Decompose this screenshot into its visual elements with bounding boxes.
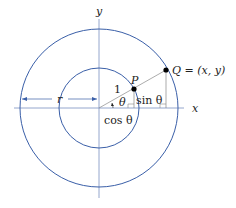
point-p-label: P bbox=[130, 74, 139, 87]
point-q-label: Q = (x, y) bbox=[172, 64, 225, 77]
polar-diagram: y x r 1 θ P Q = (x, y) sin θ cos θ bbox=[0, 0, 236, 208]
point-p bbox=[131, 86, 136, 91]
angle-arrowhead bbox=[111, 103, 114, 106]
unit-radius-label: 1 bbox=[114, 83, 121, 96]
cos-label: cos θ bbox=[104, 114, 133, 127]
y-axis-label: y bbox=[95, 5, 103, 18]
point-q bbox=[163, 67, 168, 72]
radius-label: r bbox=[57, 93, 63, 106]
right-angle-marker-p bbox=[128, 104, 134, 108]
arrowhead-left bbox=[22, 97, 27, 101]
sin-label: sin θ bbox=[136, 94, 163, 107]
x-axis-label: x bbox=[192, 102, 199, 115]
arrowhead-right bbox=[92, 97, 97, 101]
angle-label: θ bbox=[119, 96, 126, 109]
